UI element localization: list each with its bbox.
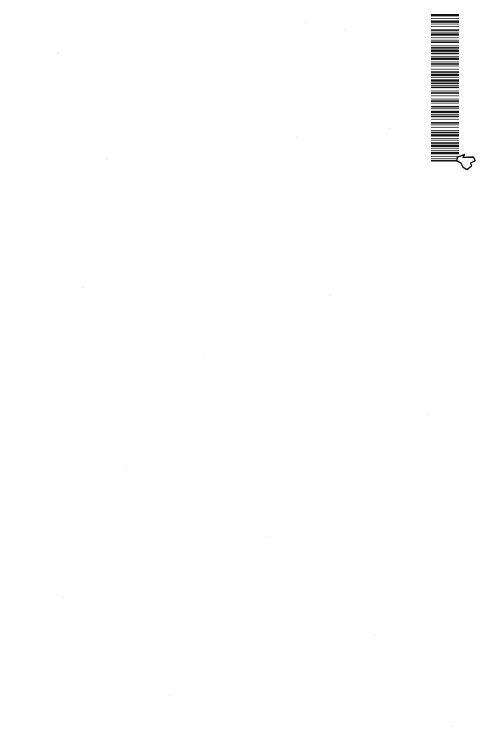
scanned-page: W9-CAB-500 [0, 0, 486, 756]
page-body-text [0, 0, 1, 1]
paper-grain-texture [0, 0, 486, 756]
barcode-icon [431, 14, 459, 164]
barcode-label: W9-CAB-500 [428, 10, 484, 182]
pointing-hand-icon [454, 147, 478, 175]
